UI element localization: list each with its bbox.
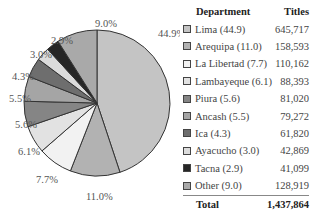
total-label: Total [183,199,257,210]
legend-swatch [183,164,191,172]
legend-swatch [183,147,191,155]
legend-label: Lambayeque (6.1) [195,76,272,87]
legend-row: Ica (4.3)61,820 [183,125,309,142]
legend-value: 158,593 [262,41,309,52]
legend-value: 41,099 [257,163,309,174]
legend-swatch [183,25,191,33]
legend-row: La Libertad (7.7)110,162 [183,55,309,72]
legend-row: Other (9.0)128,919 [183,177,309,194]
legend-swatch [183,112,191,120]
legend-value: 110,162 [267,58,309,69]
legend-label: Arequipa (11.0) [195,41,262,52]
department-header: Department [183,6,257,17]
legend-value: 645,717 [257,24,309,35]
slice-percent-label: 7.7% [36,174,58,185]
legend-swatch [183,60,191,68]
legend-label: Ancash (5.5) [195,111,257,122]
slice-percent-label: 5.6% [15,119,37,130]
legend-label: Ayacucho (3.0) [195,145,259,156]
pie-chart: 44.9%11.0%7.7%6.1%5.6%5.5%4.3%3.0%2.9%9.… [0,0,180,213]
slice-percent-label: 5.5% [9,93,31,104]
slice-percent-label: 3.0% [30,49,52,60]
legend-value: 81,020 [257,93,309,104]
legend-row: Piura (5.6)81,020 [183,90,309,107]
legend-total-row: Total 1,437,864 [183,195,309,213]
legend-row: Ayacucho (3.0)42,869 [183,142,309,159]
legend-label: Lima (44.9) [195,24,257,35]
slice-percent-label: 11.0% [86,191,113,202]
legend-row: Lima (44.9)645,717 [183,20,309,37]
legend-value: 79,272 [257,111,309,122]
legend-row: Lambayeque (6.1)88,393 [183,73,309,90]
legend-value: 128,919 [257,180,309,191]
legend-swatch [183,42,191,50]
legend-value: 88,393 [272,76,309,87]
legend-header: Department Titles [183,3,309,20]
legend-label: Other (9.0) [195,180,257,191]
legend-swatch [183,129,191,137]
legend-swatch [183,95,191,103]
legend-row: Tacna (2.9)41,099 [183,160,309,177]
slice-percent-label: 6.1% [18,146,40,157]
legend-value: 42,869 [259,145,309,156]
legend-label: Tacna (2.9) [195,163,257,174]
legend-label: La Libertad (7.7) [195,58,267,69]
slice-percent-label: 4.3% [12,71,34,82]
titles-header: Titles [257,6,309,17]
legend-label: Piura (5.6) [195,93,257,104]
legend-label: Ica (4.3) [195,128,257,139]
legend-swatch [183,182,191,190]
legend-swatch [183,77,191,85]
legend-table: Department Titles Lima (44.9)645,717Areq… [183,3,309,213]
legend-row: Arequipa (11.0)158,593 [183,38,309,55]
slice-percent-label: 2.9% [51,35,73,46]
slice-percent-label: 44.9% [158,28,180,39]
slice-percent-label: 9.0% [95,18,117,29]
legend-row: Ancash (5.5)79,272 [183,107,309,124]
total-value: 1,437,864 [257,199,309,210]
legend-value: 61,820 [257,128,309,139]
